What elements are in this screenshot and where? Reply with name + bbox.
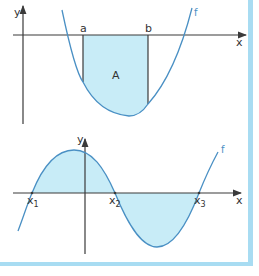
integral-area-diagram: y x a b A f y x f x1 x2 x3 (0, 0, 259, 276)
top-function-label: f (194, 7, 198, 18)
root1-label: x1 (27, 194, 39, 209)
frame-bottom-border (0, 262, 253, 266)
bottom-panel: y x f x1 x2 x3 (13, 133, 243, 254)
bound-b-label: b (145, 22, 152, 35)
top-x-label: x (236, 36, 243, 49)
area-x1-to-x2 (32, 150, 115, 193)
bound-a-label: a (80, 22, 87, 35)
root3-label: x3 (194, 194, 206, 209)
bottom-function-label: f (221, 144, 225, 155)
bottom-y-label: y (77, 133, 84, 146)
frame-right-border (248, 0, 253, 266)
bottom-x-label: x (236, 194, 243, 207)
top-panel: y x a b A f (13, 6, 246, 124)
area-label: A (112, 69, 120, 82)
top-y-label: y (14, 6, 21, 19)
